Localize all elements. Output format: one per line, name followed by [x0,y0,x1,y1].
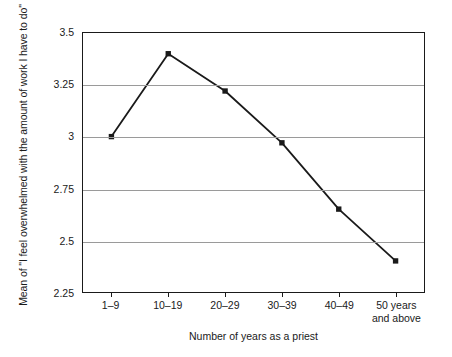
data-point-marker [279,140,284,145]
y-tick-label: 2.25 [34,287,74,299]
x-tick-mark [282,293,283,297]
y-tick-label: 2.5 [34,235,74,247]
x-tick-mark [168,293,169,297]
chart-figure: Mean of "I feel overwhelmed with the amo… [0,0,452,357]
gridline [83,190,424,191]
y-tick-label: 3 [34,130,74,142]
y-tick-label: 3.5 [34,26,74,38]
plot-area [82,32,425,293]
data-point-marker [336,206,341,211]
gridline [83,85,424,86]
x-tick-mark [396,293,397,297]
x-tick-mark [225,293,226,297]
x-tick-mark [339,293,340,297]
series-line-chart [83,33,424,292]
y-tick-label: 2.75 [34,183,74,195]
x-axis-title: Number of years as a priest [82,330,425,342]
data-point-marker [222,88,227,93]
gridline [83,242,424,243]
x-tick-label: 50 yearsand above [351,299,441,324]
gridline [83,137,424,138]
data-point-marker [166,51,171,56]
x-tick-mark [111,293,112,297]
data-point-marker [393,258,398,263]
y-tick-label: 3.25 [34,78,74,90]
